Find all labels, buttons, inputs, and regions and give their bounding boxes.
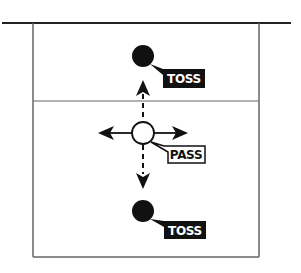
- arrow-down-icon: [136, 173, 150, 189]
- passer-player-icon: [132, 122, 154, 144]
- toss-label-bottom: TOSS: [168, 224, 202, 238]
- toss-label-top: TOSS: [167, 72, 201, 86]
- pass-label: PASS: [170, 148, 203, 162]
- tosser-bottom-player-icon: [132, 200, 154, 222]
- drill-diagram: TOSS PASS TOSS: [0, 0, 301, 273]
- tosser-top-player-icon: [132, 45, 154, 67]
- arrow-up-icon: [136, 80, 150, 96]
